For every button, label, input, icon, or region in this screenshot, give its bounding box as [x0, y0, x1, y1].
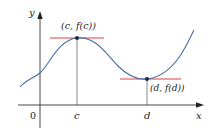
x-axis-label: x	[196, 110, 202, 121]
local-max-point	[75, 36, 79, 40]
local-min-point	[145, 77, 149, 81]
local-min-label: (d, f(d))	[150, 83, 185, 93]
local-max-label: (c, f(c))	[61, 20, 96, 31]
function-extrema-diagram: y x 0 c d (c, f(c)) (d, f(d))	[0, 0, 211, 135]
y-axis-label: y	[28, 7, 35, 18]
origin-label: 0	[30, 110, 36, 121]
x-axis-arrow-icon	[196, 102, 204, 107]
axes	[18, 11, 204, 128]
y-axis-arrow-icon	[37, 11, 42, 19]
d-tick-label: d	[144, 110, 150, 121]
c-tick-label: c	[74, 110, 80, 121]
